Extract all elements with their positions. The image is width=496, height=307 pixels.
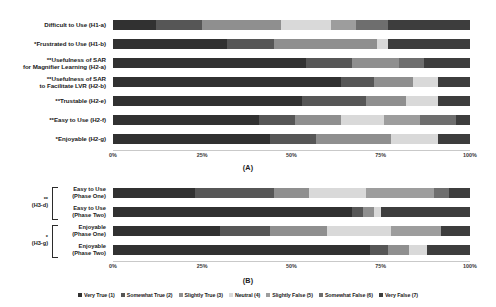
panel-a-row-label: *Enjoyable (H2-g) bbox=[0, 132, 109, 146]
legend-item-6[interactable]: Somewhat False (6) bbox=[319, 292, 373, 298]
legend-item-1[interactable]: Very True (1) bbox=[78, 292, 115, 298]
significance-marker: * bbox=[2, 234, 48, 241]
panel-a-row-label: *Frustrated to Use (H1-b) bbox=[0, 37, 109, 51]
panel-b-row: Easy to Use(Phase One) bbox=[0, 186, 496, 200]
panel-b-row-label: Easy to Use(Phase Two) bbox=[58, 205, 106, 219]
significance-marker: ** bbox=[55, 97, 60, 104]
legend-swatch-icon bbox=[266, 293, 270, 297]
axis-tick-100pct: 100% bbox=[463, 263, 477, 269]
bar-segment-1 bbox=[113, 39, 227, 49]
hypothesis-id: (H3-g) bbox=[2, 240, 48, 247]
panel-a-axis-line bbox=[113, 150, 470, 151]
bar-segment-3 bbox=[374, 77, 413, 87]
panel-b-title: (B) bbox=[0, 276, 496, 285]
axis-tick-100pct: 100% bbox=[463, 152, 477, 158]
panel-b-group-bracket bbox=[52, 187, 58, 220]
bar-segment-4 bbox=[374, 207, 381, 217]
bar-segment-3 bbox=[270, 226, 327, 236]
significance-marker: ** bbox=[47, 56, 52, 63]
stacked-bar bbox=[113, 134, 470, 144]
panel-a-row: **Usefulness of SARfor Magnifier Learnin… bbox=[0, 56, 496, 70]
stacked-bar bbox=[113, 226, 470, 236]
legend-item-2[interactable]: Somewhat True (2) bbox=[121, 292, 173, 298]
bar-segment-7 bbox=[449, 188, 470, 198]
axis-tick-0pct: 0% bbox=[109, 152, 117, 158]
axis-tick-75pct: 75% bbox=[375, 152, 386, 158]
bar-segment-5 bbox=[384, 115, 420, 125]
panel-b-axis-line bbox=[113, 261, 470, 262]
bar-segment-7 bbox=[456, 115, 470, 125]
likert-chart-figure: Difficult to Use (H1-a)*Frustrated to Us… bbox=[0, 0, 496, 307]
bar-segment-4 bbox=[309, 188, 366, 198]
panel-a-row-label: **Usefulness of SARto Facilitate LVR (H2… bbox=[0, 75, 109, 89]
bar-segment-2 bbox=[220, 226, 270, 236]
legend-label: Neutral (4) bbox=[235, 292, 260, 298]
significance-marker: * bbox=[34, 40, 36, 47]
bar-segment-2 bbox=[306, 58, 352, 68]
bar-segment-2 bbox=[341, 77, 373, 87]
panel-b-row: Enjoyable(Phase One) bbox=[0, 224, 496, 238]
bar-segment-3 bbox=[316, 134, 391, 144]
stacked-bar bbox=[113, 207, 470, 217]
bar-segment-4 bbox=[281, 20, 331, 30]
legend-label: Very False (7) bbox=[385, 292, 418, 298]
bar-segment-3 bbox=[366, 96, 405, 106]
legend-label: Slightly True (3) bbox=[185, 292, 223, 298]
legend-item-4[interactable]: Neutral (4) bbox=[229, 292, 260, 298]
bar-segment-6 bbox=[399, 58, 424, 68]
bar-segment-1 bbox=[113, 188, 195, 198]
bar-segment-2 bbox=[370, 245, 388, 255]
significance-marker: ** bbox=[47, 75, 52, 82]
bar-segment-5 bbox=[366, 188, 434, 198]
stacked-bar bbox=[113, 20, 470, 30]
legend-swatch-icon bbox=[78, 293, 82, 297]
legend-swatch-icon bbox=[229, 293, 233, 297]
bar-segment-1 bbox=[113, 245, 370, 255]
axis-tick-50pct: 50% bbox=[286, 152, 297, 158]
bar-segment-7 bbox=[438, 96, 470, 106]
bar-segment-4 bbox=[406, 96, 438, 106]
significance-marker: * bbox=[56, 135, 58, 142]
legend-swatch-icon bbox=[379, 293, 383, 297]
legend-label: Somewhat True (2) bbox=[127, 292, 173, 298]
bar-segment-3 bbox=[274, 39, 378, 49]
panel-b-group-label: **(H3-d) bbox=[2, 196, 48, 209]
bar-segment-2 bbox=[270, 134, 316, 144]
panel-b-row-label: Enjoyable(Phase Two) bbox=[58, 243, 106, 257]
legend-swatch-icon bbox=[319, 293, 323, 297]
bar-segment-1 bbox=[113, 77, 341, 87]
chart-legend: Very True (1)Somewhat True (2)Slightly T… bbox=[0, 290, 496, 300]
panel-a-row-label: Difficult to Use (H1-a) bbox=[0, 18, 109, 32]
legend-swatch-icon bbox=[179, 293, 183, 297]
bar-segment-2 bbox=[195, 188, 274, 198]
bar-segment-2 bbox=[352, 207, 363, 217]
panel-a: Difficult to Use (H1-a)*Frustrated to Us… bbox=[0, 0, 496, 160]
bar-segment-7 bbox=[424, 58, 470, 68]
panel-a-row: Difficult to Use (H1-a) bbox=[0, 18, 496, 32]
legend-item-5[interactable]: Slightly False (5) bbox=[266, 292, 313, 298]
bar-segment-4 bbox=[409, 245, 427, 255]
legend-label: Somewhat False (6) bbox=[325, 292, 373, 298]
panel-b-axis: 0%25%50%75%100% bbox=[113, 263, 470, 273]
legend-item-3[interactable]: Slightly True (3) bbox=[179, 292, 223, 298]
axis-tick-25pct: 25% bbox=[197, 152, 208, 158]
bar-segment-7 bbox=[441, 226, 470, 236]
stacked-bar bbox=[113, 245, 470, 255]
axis-tick-50pct: 50% bbox=[286, 263, 297, 269]
bar-segment-3 bbox=[388, 245, 409, 255]
panel-b-group-bracket bbox=[52, 225, 58, 258]
stacked-bar bbox=[113, 115, 470, 125]
panel-b-row-label: Enjoyable(Phase One) bbox=[58, 224, 106, 238]
bar-segment-4 bbox=[391, 134, 437, 144]
stacked-bar bbox=[113, 96, 470, 106]
bar-segment-7 bbox=[427, 245, 470, 255]
bar-segment-5 bbox=[331, 20, 356, 30]
legend-item-7[interactable]: Very False (7) bbox=[379, 292, 418, 298]
bar-segment-6 bbox=[356, 20, 388, 30]
bar-segment-3 bbox=[363, 207, 374, 217]
bar-segment-7 bbox=[438, 134, 470, 144]
bar-segment-3 bbox=[352, 58, 398, 68]
panel-a-row: *Enjoyable (H2-g) bbox=[0, 132, 496, 146]
bar-segment-2 bbox=[227, 39, 273, 49]
panel-b-row: Enjoyable(Phase Two) bbox=[0, 243, 496, 257]
